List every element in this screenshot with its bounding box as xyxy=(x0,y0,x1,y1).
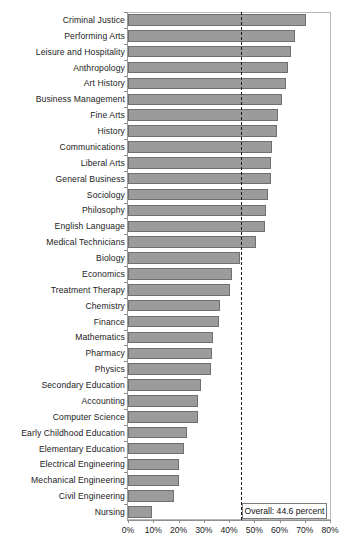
bar-track xyxy=(128,76,331,92)
category-label: Leisure and Hospitality xyxy=(0,47,125,57)
y-axis-tick xyxy=(124,203,127,204)
bar xyxy=(128,316,219,328)
bar-track xyxy=(128,187,331,203)
category-label: History xyxy=(0,126,125,136)
y-axis-tick xyxy=(124,28,127,29)
y-axis-tick xyxy=(124,361,127,362)
bar xyxy=(128,236,256,248)
bar-row: Mathematics xyxy=(0,330,352,346)
y-axis-tick xyxy=(124,44,127,45)
category-label: Chemistry xyxy=(0,301,125,311)
y-axis-tick xyxy=(124,504,127,505)
bar-row: Business Management xyxy=(0,91,352,107)
bar-track xyxy=(128,425,331,441)
bar-row: General Business xyxy=(0,171,352,187)
bar xyxy=(128,30,295,42)
category-label: Secondary Education xyxy=(0,380,125,390)
y-axis-tick xyxy=(124,139,127,140)
y-axis-tick xyxy=(124,187,127,188)
y-axis-tick xyxy=(124,282,127,283)
bar-track xyxy=(128,345,331,361)
y-axis-tick xyxy=(124,234,127,235)
y-axis-tick xyxy=(124,393,127,394)
bar xyxy=(128,109,278,121)
bar-row: Leisure and Hospitality xyxy=(0,44,352,60)
bar-row: Chemistry xyxy=(0,298,352,314)
bar-track xyxy=(128,234,331,250)
category-label: Communications xyxy=(0,142,125,152)
bar xyxy=(128,62,288,74)
bar-track xyxy=(128,139,331,155)
bar-row: History xyxy=(0,123,352,139)
category-label: Accounting xyxy=(0,396,125,406)
y-axis-tick xyxy=(124,76,127,77)
category-label: Computer Science xyxy=(0,412,125,422)
bar-track xyxy=(128,377,331,393)
bar-track xyxy=(128,266,331,282)
bar-row: Treatment Therapy xyxy=(0,282,352,298)
y-axis-tick xyxy=(124,107,127,108)
bar-track xyxy=(128,488,331,504)
bar xyxy=(128,46,291,58)
category-label: Mechanical Engineering xyxy=(0,475,125,485)
bar-row: Economics xyxy=(0,266,352,282)
category-label: Nursing xyxy=(0,507,125,517)
bar-track xyxy=(128,441,331,457)
bar-track xyxy=(128,314,331,330)
bar xyxy=(128,459,179,471)
category-label: Treatment Therapy xyxy=(0,285,125,295)
y-axis-tick xyxy=(124,488,127,489)
category-label: Anthropology xyxy=(0,63,125,73)
x-axis-tick xyxy=(179,520,180,523)
category-label: Medical Technicians xyxy=(0,237,125,247)
bar-track xyxy=(128,330,331,346)
bar xyxy=(128,252,240,264)
bar-track xyxy=(128,107,331,123)
y-axis-tick xyxy=(124,91,127,92)
category-label: Economics xyxy=(0,269,125,279)
bar-row: Computer Science xyxy=(0,409,352,425)
y-axis-tick xyxy=(124,123,127,124)
bar xyxy=(128,427,187,439)
bar-row: Secondary Education xyxy=(0,377,352,393)
category-label: Physics xyxy=(0,364,125,374)
y-axis-tick xyxy=(124,250,127,251)
x-axis-tick xyxy=(254,520,255,523)
bar xyxy=(128,348,212,360)
bar-track xyxy=(128,155,331,171)
bar-track xyxy=(128,60,331,76)
category-label: Finance xyxy=(0,317,125,327)
y-axis-tick xyxy=(124,377,127,378)
bar xyxy=(128,78,286,90)
y-axis-tick xyxy=(124,298,127,299)
category-label: Performing Arts xyxy=(0,31,125,41)
y-axis-tick xyxy=(124,155,127,156)
overall-annotation-label: Overall: 44.6 percent xyxy=(245,506,325,516)
bar-row: Early Childhood Education xyxy=(0,425,352,441)
category-label: Mathematics xyxy=(0,332,125,342)
category-label: Business Management xyxy=(0,94,125,104)
bar-row: Physics xyxy=(0,361,352,377)
bar-track xyxy=(128,123,331,139)
bar xyxy=(128,189,268,201)
category-label: Pharmacy xyxy=(0,348,125,358)
bar xyxy=(128,221,265,233)
bar-track xyxy=(128,282,331,298)
category-label: English Language xyxy=(0,221,125,231)
bar-row: Anthropology xyxy=(0,60,352,76)
bar-row: Accounting xyxy=(0,393,352,409)
category-label: Electrical Engineering xyxy=(0,459,125,469)
y-axis-tick xyxy=(124,330,127,331)
x-axis-tick xyxy=(153,520,154,523)
bar-row: Art History xyxy=(0,76,352,92)
x-axis-tick xyxy=(280,520,281,523)
bar-track xyxy=(128,91,331,107)
bar-track xyxy=(128,361,331,377)
category-label: Liberal Arts xyxy=(0,158,125,168)
bar-row: Elementary Education xyxy=(0,441,352,457)
category-label: Civil Engineering xyxy=(0,491,125,501)
y-axis-tick xyxy=(124,171,127,172)
bar xyxy=(128,173,271,185)
overall-reference-line xyxy=(241,12,242,520)
bar xyxy=(128,94,282,106)
